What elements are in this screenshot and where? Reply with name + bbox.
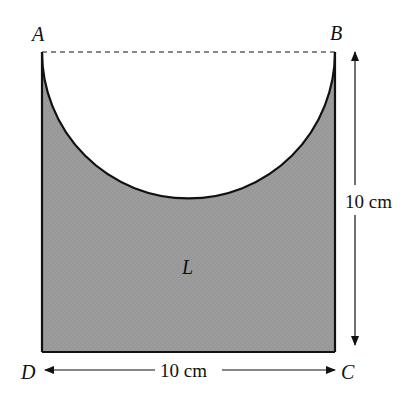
width-dimension-label: 10 cm	[160, 360, 207, 381]
vertex-label-d: D	[20, 361, 36, 383]
height-dimension-label: 10 cm	[345, 191, 392, 212]
region-label-l: L	[181, 256, 193, 278]
diagram-canvas: A B C D L 10 cm 10 cm	[0, 0, 417, 393]
shaded-region-l	[42, 52, 335, 352]
vertex-label-b: B	[330, 22, 342, 44]
vertex-label-c: C	[341, 361, 355, 383]
vertex-label-a: A	[30, 23, 45, 45]
